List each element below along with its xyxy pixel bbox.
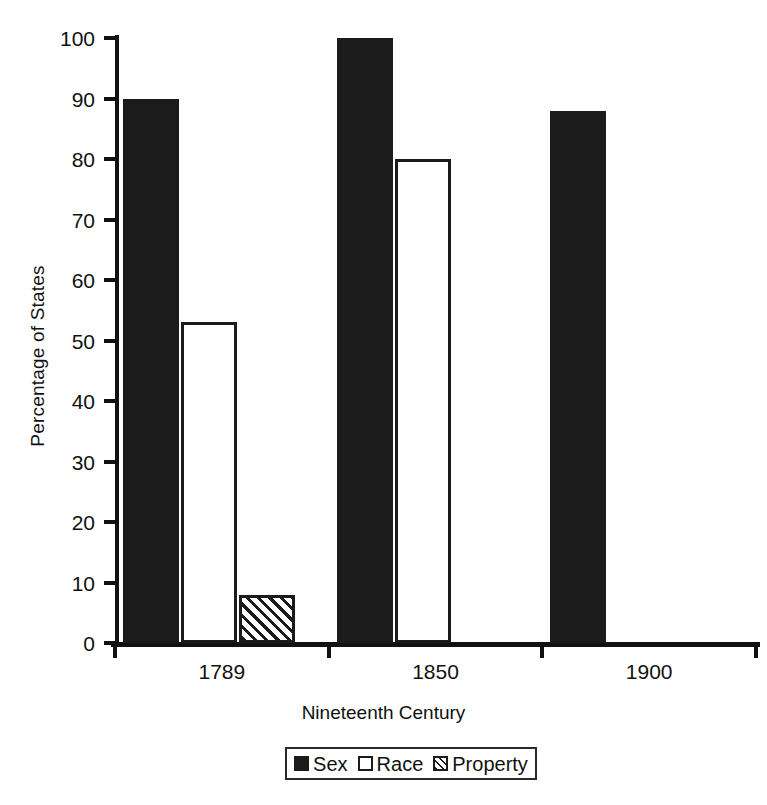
y-axis-tick-label: 20 bbox=[72, 512, 95, 533]
legend-label: Race bbox=[377, 754, 424, 774]
y-axis-tick: 30 bbox=[104, 460, 115, 464]
y-axis-tick: 10 bbox=[104, 581, 115, 585]
y-axis-tick: 60 bbox=[104, 278, 115, 282]
y-axis-tick-label: 70 bbox=[72, 209, 95, 230]
y-axis-tick: 70 bbox=[104, 218, 115, 222]
legend-swatch-property-icon bbox=[433, 756, 448, 771]
y-axis-tick: 80 bbox=[104, 157, 115, 161]
y-axis-tick-label: 30 bbox=[72, 451, 95, 472]
y-axis-tick: 40 bbox=[104, 399, 115, 403]
bar-1850-sex bbox=[337, 38, 393, 643]
x-axis-tick-label: 1850 bbox=[376, 660, 496, 684]
y-axis-tick-label: 10 bbox=[72, 572, 95, 593]
bar-1789-race bbox=[181, 322, 237, 643]
x-axis-title: Nineteenth Century bbox=[0, 702, 767, 724]
x-axis-tick bbox=[540, 646, 544, 658]
y-axis-tick-label: 60 bbox=[72, 270, 95, 291]
y-axis-tick-label: 40 bbox=[72, 391, 95, 412]
y-axis-tick-label: 0 bbox=[83, 633, 95, 654]
bar-1789-sex bbox=[123, 99, 179, 644]
y-axis-tick-label: 90 bbox=[72, 88, 95, 109]
x-axis-tick bbox=[754, 646, 758, 658]
legend-item-sex: Sex bbox=[294, 754, 347, 774]
y-axis-tick: 20 bbox=[104, 520, 115, 524]
x-axis-tick-label: 1900 bbox=[589, 660, 709, 684]
legend-swatch-race-icon bbox=[358, 756, 373, 771]
legend-item-property: Property bbox=[433, 754, 528, 774]
bar-1850-race bbox=[395, 159, 451, 643]
y-axis-tick-label: 50 bbox=[72, 330, 95, 351]
y-axis-tick-label: 80 bbox=[72, 149, 95, 170]
bar-1789-property bbox=[239, 595, 295, 643]
chart-legend: SexRaceProperty bbox=[285, 747, 537, 780]
bar-1900-sex bbox=[550, 111, 606, 643]
y-axis-tick: 50 bbox=[104, 339, 115, 343]
legend-label: Sex bbox=[313, 754, 347, 774]
legend-swatch-sex-icon bbox=[294, 756, 309, 771]
y-axis-line bbox=[115, 35, 119, 646]
y-axis-tick: 100 bbox=[104, 36, 115, 40]
bar-chart: Percentage of States 0102030405060708090… bbox=[0, 0, 767, 805]
x-axis-tick bbox=[327, 646, 331, 658]
x-axis-tick bbox=[113, 646, 117, 658]
y-axis-title: Percentage of States bbox=[27, 226, 49, 486]
plot-area: 0102030405060708090100 bbox=[115, 38, 756, 643]
x-axis-tick-label: 1789 bbox=[162, 660, 282, 684]
legend-item-race: Race bbox=[358, 754, 424, 774]
legend-label: Property bbox=[452, 754, 528, 774]
y-axis-tick: 0 bbox=[104, 641, 115, 645]
y-axis-tick: 90 bbox=[104, 97, 115, 101]
y-axis-tick-label: 100 bbox=[60, 28, 95, 49]
